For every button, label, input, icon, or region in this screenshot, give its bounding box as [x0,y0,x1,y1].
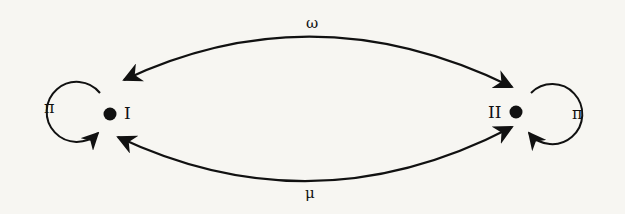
diagram-canvas [0,0,625,214]
node-II-dot [510,106,523,119]
edge-label-mu: μ [305,186,315,201]
loop-label-II: π [572,106,583,122]
loop-label-I: π [44,100,55,116]
node-I-dot [104,108,117,121]
self-loop-I [47,82,100,142]
edge-omega [124,37,512,87]
edge-label-omega: ω [306,16,318,31]
edge-mu [118,127,512,181]
node-label-II: II [488,104,501,121]
node-label-I: I [124,105,131,122]
